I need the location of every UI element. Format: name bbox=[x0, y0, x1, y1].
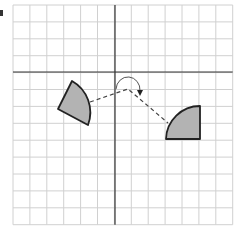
original-sector bbox=[58, 81, 90, 125]
rotation-arrow-arc bbox=[116, 77, 140, 91]
rotated-sector bbox=[166, 106, 200, 139]
rotation-diagram bbox=[0, 0, 242, 235]
arrowhead-icon bbox=[137, 90, 143, 96]
